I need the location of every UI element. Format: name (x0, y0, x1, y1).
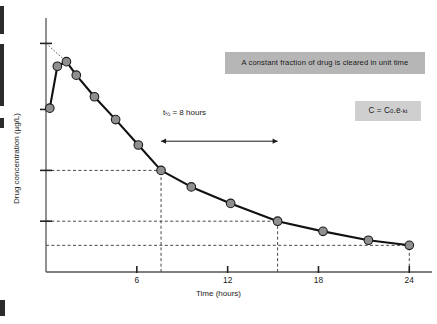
x-tick-label: 12 (218, 275, 238, 285)
data-point-marker[interactable] (405, 241, 414, 250)
x-tick-label: 24 (399, 275, 419, 285)
figure-canvas: A constant fraction of drug is cleared i… (0, 0, 437, 324)
halflife-annotation-label: t½ = 8 hours (163, 108, 206, 117)
data-point-marker[interactable] (226, 199, 235, 208)
annotation-clearance-note: A constant fraction of drug is cleared i… (225, 52, 425, 74)
halflife-arrow-head-right (273, 139, 278, 144)
data-point-marker[interactable] (62, 57, 71, 66)
equation-superscript: -kt (401, 108, 408, 115)
data-point-marker[interactable] (187, 183, 196, 192)
x-tick-label: 18 (308, 275, 328, 285)
data-point-marker[interactable] (111, 115, 120, 124)
x-axis-title: Time (hours) (0, 289, 437, 298)
x-tick-label: 6 (127, 275, 147, 285)
data-point-marker[interactable] (90, 92, 99, 101)
data-point-marker[interactable] (273, 217, 282, 226)
halflife-rest: = 8 hours (170, 108, 206, 117)
data-point-marker[interactable] (319, 227, 328, 236)
data-point-marker[interactable] (72, 71, 81, 80)
data-series-line (50, 62, 410, 246)
data-point-marker[interactable] (157, 166, 166, 175)
equation-mid: .e (394, 106, 401, 115)
y-axis-title: Drug concentration (µg/L) (12, 79, 21, 239)
data-point-marker[interactable] (53, 62, 62, 71)
data-point-marker[interactable] (134, 141, 143, 150)
equation-prefix: C = C (368, 106, 390, 115)
data-point-marker[interactable] (45, 104, 54, 113)
data-point-marker[interactable] (364, 236, 373, 245)
annotation-equation: C = C0.e-kt (355, 101, 421, 121)
halflife-arrow-head-left (161, 139, 166, 144)
